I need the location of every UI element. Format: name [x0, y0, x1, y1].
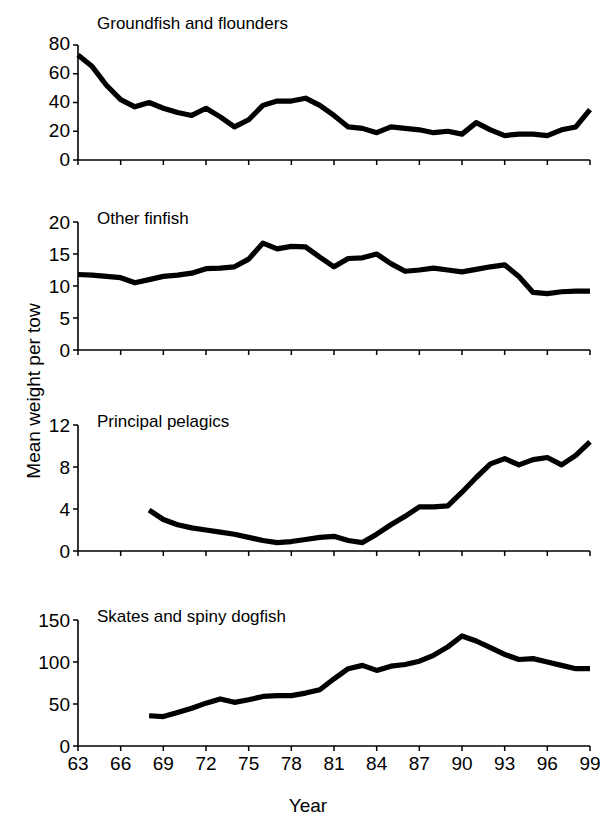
plot-area-2 [0, 390, 616, 570]
panel-other-finfish: Other finfish 20 15 10 5 0 [0, 190, 616, 370]
x-tick-label: 78 [267, 753, 315, 775]
x-axis-title: Year [0, 795, 616, 817]
data-series-line [78, 55, 590, 136]
x-tick-label: 99 [566, 753, 614, 775]
plot-area-1 [0, 190, 616, 370]
figure-panel-chart: Mean weight per tow Groundfish and floun… [0, 0, 616, 826]
x-tick-label: 81 [310, 753, 358, 775]
data-series-line [149, 442, 590, 543]
x-tick-label: 90 [438, 753, 486, 775]
x-tick-label: 84 [353, 753, 401, 775]
x-tick-label: 72 [182, 753, 230, 775]
plot-area-0 [0, 0, 616, 180]
data-series-line [149, 636, 590, 717]
x-tick-label: 69 [139, 753, 187, 775]
x-tick-label: 96 [523, 753, 571, 775]
panel-groundfish-and-flounders: Groundfish and flounders 80 60 40 20 0 [0, 0, 616, 180]
x-tick-label: 87 [395, 753, 443, 775]
x-tick-label: 63 [54, 753, 102, 775]
data-series-line [78, 243, 590, 294]
x-tick-label: 66 [97, 753, 145, 775]
x-tick-label: 93 [481, 753, 529, 775]
panel-skates-and-spiny-dogfish: Skates and spiny dogfish 150 100 50 0 [0, 595, 616, 755]
plot-area-3 [0, 595, 616, 755]
x-tick-label: 75 [225, 753, 273, 775]
panel-principal-pelagics: Principal pelagics 12 8 4 0 [0, 390, 616, 570]
